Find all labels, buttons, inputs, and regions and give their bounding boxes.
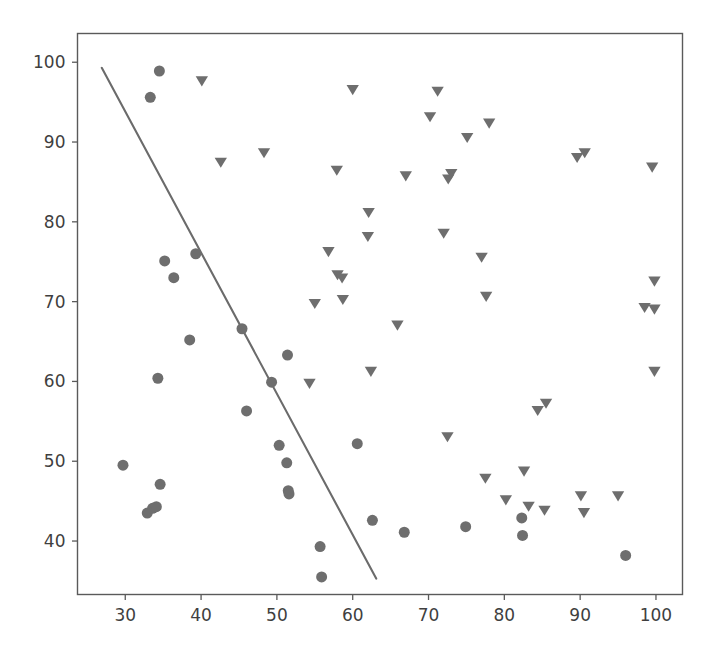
x-tick-label: 40 — [190, 605, 212, 625]
x-tick-label: 70 — [418, 605, 440, 625]
data-point-circle — [284, 488, 295, 499]
data-point-circle — [281, 457, 292, 468]
data-point-circle — [190, 248, 201, 259]
y-tick-label: 90 — [44, 132, 66, 152]
x-tick-label: 60 — [342, 605, 364, 625]
x-tick-label: 50 — [266, 605, 288, 625]
x-tick-label: 90 — [569, 605, 591, 625]
y-tick-label: 40 — [44, 531, 66, 551]
x-tick-label: 30 — [114, 605, 136, 625]
data-point-circle — [266, 377, 277, 388]
data-point-circle — [154, 66, 165, 77]
data-point-circle — [237, 323, 248, 334]
data-point-circle — [516, 512, 527, 523]
figure-background — [0, 0, 717, 666]
data-point-circle — [151, 501, 162, 512]
scatter-plot: 30405060708090100 405060708090100 — [0, 0, 717, 666]
figure-container: 30405060708090100 405060708090100 — [0, 0, 717, 666]
y-tick-label: 100 — [33, 52, 65, 72]
data-point-circle — [274, 440, 285, 451]
data-point-circle — [460, 521, 471, 532]
data-point-circle — [159, 255, 170, 266]
x-tick-label: 100 — [640, 605, 672, 625]
data-point-circle — [184, 334, 195, 345]
data-point-circle — [352, 438, 363, 449]
y-tick-label: 60 — [44, 371, 66, 391]
data-point-circle — [145, 92, 156, 103]
y-tick-label: 50 — [44, 451, 66, 471]
data-point-circle — [155, 479, 166, 490]
data-point-circle — [620, 550, 631, 561]
data-point-circle — [168, 272, 179, 283]
data-point-circle — [399, 527, 410, 538]
data-point-circle — [241, 405, 252, 416]
data-point-circle — [316, 571, 327, 582]
y-tick-label: 70 — [44, 292, 66, 312]
data-point-circle — [282, 350, 293, 361]
data-point-circle — [152, 373, 163, 384]
data-point-circle — [367, 515, 378, 526]
data-point-circle — [517, 530, 528, 541]
y-tick-label: 80 — [44, 212, 66, 232]
data-point-circle — [315, 541, 326, 552]
data-point-circle — [117, 460, 128, 471]
x-tick-label: 80 — [494, 605, 516, 625]
